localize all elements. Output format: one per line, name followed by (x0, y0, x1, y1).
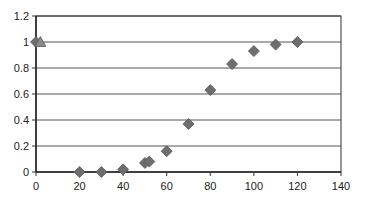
data-points (31, 37, 303, 178)
y-tick-label: 0.8 (14, 62, 29, 74)
x-tick-label: 0 (33, 180, 39, 192)
y-tick-label: 1.2 (14, 10, 29, 22)
y-tick-label: 1 (23, 36, 29, 48)
x-tick-label: 40 (117, 180, 129, 192)
diamond-marker (74, 167, 85, 178)
y-tick-label: 0.4 (14, 114, 29, 126)
diamond-marker (270, 39, 281, 50)
y-tick-label: 0.6 (14, 88, 29, 100)
diamond-marker (96, 167, 107, 178)
diamond-marker (248, 46, 259, 57)
x-tick-label: 120 (288, 180, 306, 192)
y-tick-label: 0.2 (14, 140, 29, 152)
x-tick-label: 20 (73, 180, 85, 192)
diamond-marker (118, 164, 129, 175)
y-axis-ticks: 00.20.40.60.811.2 (14, 10, 36, 178)
x-tick-label: 80 (204, 180, 216, 192)
x-tick-label: 100 (245, 180, 263, 192)
y-tick-label: 0 (23, 166, 29, 178)
x-tick-label: 140 (332, 180, 350, 192)
diamond-marker (292, 37, 303, 48)
x-tick-label: 60 (161, 180, 173, 192)
diamond-marker (161, 146, 172, 157)
scatter-chart: 00.20.40.60.811.2 020406080100120140 (0, 0, 381, 209)
